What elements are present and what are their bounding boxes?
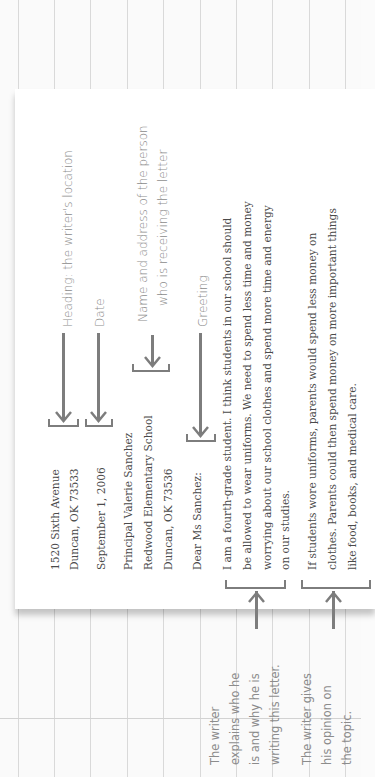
inside-address-line-1: Principal Valerie Sanchez [121,433,135,570]
paragraph1-line-2: be allowed to wear uniforms. We need to … [240,201,254,570]
paragraph2-bracket [301,580,371,589]
side-note-paragraph1-line-2: explains who he [225,673,245,765]
heading-line-1: 1520 Sixth Avenue [48,469,62,570]
side-note-paragraph2-line-2: his opinion on [317,685,337,765]
paragraph2-line-2: clothes. Parents could then spend money … [325,208,339,570]
greeting-bracket [186,434,216,442]
date-bracket [85,419,113,427]
inside-address-line-2: Redwood Elementary School [141,415,155,570]
heading-bracket [48,419,79,427]
paragraph2-line-3: like food, books, and medical care. [345,383,359,570]
greeting-line: Dear Ms Sanchez: [190,472,204,570]
heading-line-2: Duncan, OK 73533 [67,468,81,570]
side-note-paragraph1-line-1: The writer [205,707,225,765]
annotation-heading: Heading: the writer's location [60,150,76,327]
inside-address-line-3: Duncan, OK 73536 [161,468,175,570]
paragraph1-arrowhead-icon [248,590,265,604]
paragraph1-bracket [225,580,286,589]
greeting-arrow-icon [199,333,202,435]
paragraph1-line-1: I am a fourth-grade student. I think stu… [220,218,234,570]
annotation-inside-address-line-2: who is receiving the letter [155,150,171,306]
side-note-paragraph1-line-3: is and why he is [245,673,265,765]
heading-arrow-icon [62,333,65,420]
paragraph1-line-3: worrying about our school clothes and sp… [260,205,274,570]
annotation-greeting: Greeting [195,275,211,327]
paragraph2-arrowhead-icon [325,590,342,604]
side-note-paragraph1-line-4: writing this letter. [265,664,285,765]
inside-address-bracket [132,364,170,372]
side-note-paragraph2-line-1: The writer gives [297,673,317,765]
annotation-inside-address-line-1: Name and address of the person [135,125,151,322]
annotation-date: Date [92,298,108,327]
paragraph2-line-1: If students wore uniforms, parents would… [305,233,319,570]
paragraph1-line-4: on our studies. [278,490,292,570]
side-note-paragraph2-line-3: the topic. [337,711,357,765]
date-line: September 1, 2006 [94,467,108,570]
date-arrow-icon [97,333,100,420]
